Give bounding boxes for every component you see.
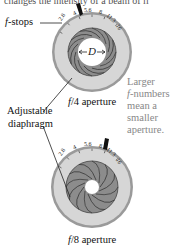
diaphragm-label: Adjustable diaphragm: [7, 104, 53, 130]
caption-f4: f/4 aperture: [68, 96, 116, 107]
fstops-label: f-stops: [5, 16, 33, 27]
diameter-label: D: [88, 45, 96, 57]
caption-f8: f/8 aperture: [68, 234, 116, 245]
fstop-5.6-bottom: 5.6: [84, 141, 92, 147]
note-larger-fnumbers: Larger f-numbers mean a smaller aperture…: [127, 76, 175, 136]
fstop-5.6-top: 5.6: [84, 7, 92, 13]
